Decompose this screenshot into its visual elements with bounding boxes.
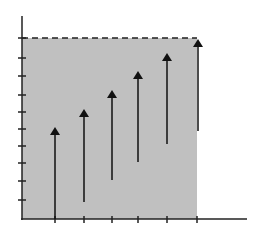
arrow-diagram xyxy=(0,0,265,239)
shaded-region xyxy=(22,38,197,219)
diagram-canvas xyxy=(0,0,265,239)
